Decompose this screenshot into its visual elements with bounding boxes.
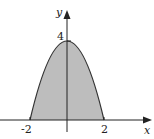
parabola-chart: y x 4 -2 2 xyxy=(0,0,154,139)
y-axis-label: y xyxy=(55,6,63,19)
tick-label-4: 4 xyxy=(57,30,64,43)
x-axis-arrow-icon xyxy=(143,117,152,124)
y-axis-arrow-icon xyxy=(64,10,71,19)
x-axis-label: x xyxy=(144,124,151,137)
tick-label-neg2: -2 xyxy=(21,123,32,136)
tick-label-pos2: 2 xyxy=(101,123,108,136)
